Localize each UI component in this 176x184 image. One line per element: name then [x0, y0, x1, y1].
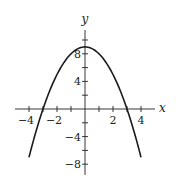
x-axis-label: x [159, 101, 166, 115]
tick-labels: −4−22484−4−8 [18, 48, 145, 171]
y-tick-label: −4 [65, 131, 81, 144]
x-tick-label: 2 [110, 114, 117, 127]
x-tick-label: −4 [18, 114, 34, 127]
y-tick-label: 4 [74, 75, 81, 88]
chart: −4−22484−4−8 x y [0, 0, 176, 184]
x-tick-label: 4 [138, 114, 145, 127]
y-axis-label: y [81, 12, 89, 26]
x-tick-label: −2 [46, 114, 62, 127]
y-tick-label: −8 [65, 158, 81, 171]
